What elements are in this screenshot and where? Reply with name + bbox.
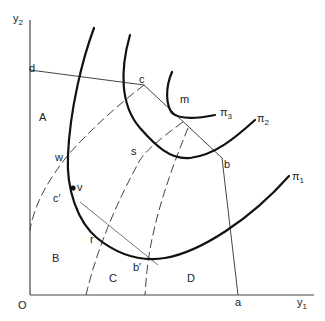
point-v-marker bbox=[70, 185, 75, 190]
region-label-c: C bbox=[109, 272, 117, 284]
region-label-a: A bbox=[39, 111, 47, 123]
diagram-canvas: y2 y1 O d c m s b w v c′ r π1 π2 π3 b′ a… bbox=[0, 0, 325, 321]
origin-label: O bbox=[18, 299, 27, 311]
label-pi3: π3 bbox=[220, 106, 233, 121]
label-v: v bbox=[77, 181, 83, 193]
label-c-prime: c′ bbox=[53, 192, 61, 204]
y1-axis-label: y1 bbox=[297, 296, 308, 311]
label-b-prime: b′ bbox=[133, 261, 141, 273]
label-b: b bbox=[224, 158, 230, 170]
label-a: a bbox=[235, 296, 242, 308]
label-pi2: π2 bbox=[257, 112, 270, 127]
curve-pi3 bbox=[167, 72, 215, 118]
label-pi1: π1 bbox=[292, 170, 305, 185]
label-m: m bbox=[180, 93, 189, 105]
label-s: s bbox=[131, 145, 137, 157]
label-c: c bbox=[139, 73, 145, 85]
region-label-b: B bbox=[52, 252, 59, 264]
region-label-d: D bbox=[187, 272, 195, 284]
curve-pi1 bbox=[68, 28, 289, 259]
label-w: w bbox=[54, 151, 63, 163]
y2-axis-label: y2 bbox=[13, 12, 24, 27]
label-d: d bbox=[29, 62, 35, 74]
curve-pi2 bbox=[123, 35, 255, 158]
label-r: r bbox=[90, 233, 94, 245]
